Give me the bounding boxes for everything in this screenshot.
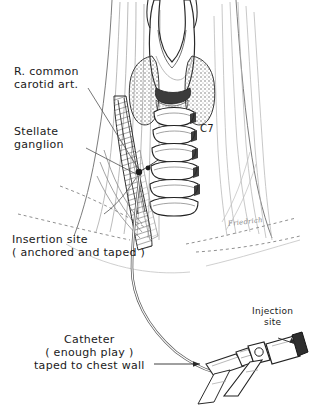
label-carotid-artery: R. common carotid art. (14, 66, 79, 92)
label-stellate-ganglion: Stellate ganglion (14, 126, 64, 152)
arrow-catheter-to-hub (154, 361, 200, 367)
label-catheter-line2: ( enough play ) (34, 347, 145, 360)
label-stellate-line2: ganglion (14, 139, 64, 152)
label-catheter-line3: taped to chest wall (34, 360, 145, 373)
label-injection-site: Injection site (252, 306, 293, 327)
label-insertion-site: Insertion site ( anchored and taped ) (12, 234, 145, 260)
label-injection-line2: site (252, 317, 293, 328)
trachea-rings (150, 108, 200, 217)
label-insertion-line2: ( anchored and taped ) (12, 247, 145, 260)
sternocleidomastoid-right (214, 2, 272, 240)
label-catheter: Catheter ( enough play ) taped to chest … (34, 334, 145, 373)
label-injection-line1: Injection (252, 306, 293, 317)
label-carotid-line2: carotid art. (14, 79, 79, 92)
figure-canvas: R. common carotid art. Stellate ganglion… (0, 0, 310, 407)
label-c7-vertebra: C7 (200, 123, 214, 135)
